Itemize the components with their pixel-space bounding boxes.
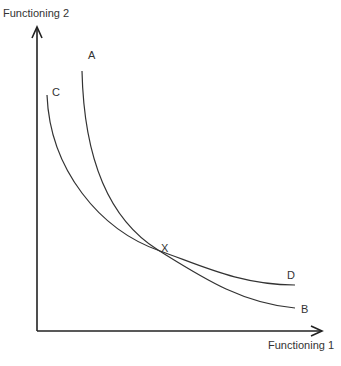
curve-label-a: A	[88, 50, 95, 61]
y-axis-label: Functioning 2	[3, 8, 69, 19]
curve-c-d	[47, 95, 295, 285]
curve-label-c: C	[52, 87, 60, 98]
curve-label-b: B	[301, 304, 308, 315]
intersection-label-x: X	[161, 243, 168, 254]
diagram-canvas	[0, 0, 341, 366]
curve-a-b	[82, 71, 295, 308]
x-axis-label: Functioning 1	[268, 340, 334, 351]
curve-label-d: D	[287, 270, 295, 281]
